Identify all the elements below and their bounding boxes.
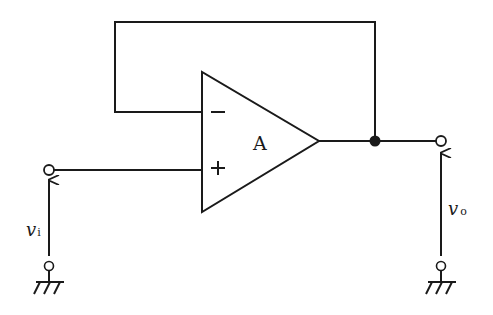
circuit-diagram: A vi vo [0,0,493,315]
amplifier-label: A [252,132,267,154]
op-amp: A [202,72,319,212]
input-voltage-label: vi [26,219,41,240]
junction-dot [370,136,381,147]
output-terminal [436,136,446,146]
output-ground-icon [426,262,456,295]
feedback-wire [115,22,375,141]
input-terminal [44,165,54,175]
output-voltage-label: vo [448,198,467,219]
input-ground-icon [34,262,64,295]
noninverting-input-symbol [211,161,225,175]
